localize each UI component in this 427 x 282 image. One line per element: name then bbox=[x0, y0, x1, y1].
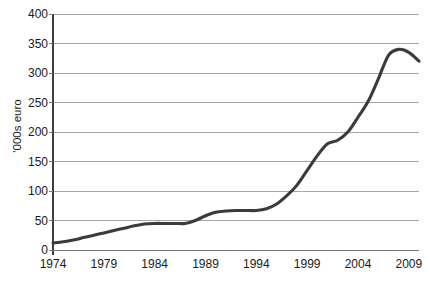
chart-container: '000s euro 050100150200250300350400 1974… bbox=[0, 0, 427, 282]
plot-area bbox=[0, 0, 427, 282]
axis-lines bbox=[49, 14, 419, 255]
gridlines bbox=[53, 14, 419, 221]
data-series-group bbox=[53, 49, 419, 243]
data-line bbox=[53, 49, 419, 243]
